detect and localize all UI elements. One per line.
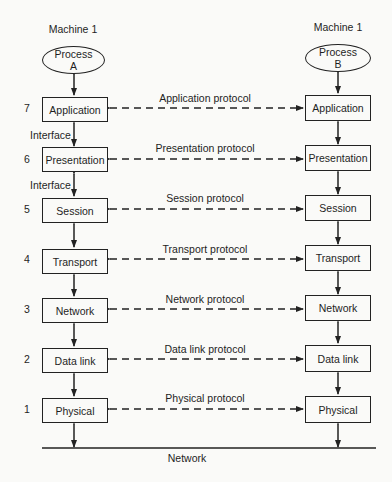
right-layer-data-link: Data link [305,345,371,372]
network-bus-label: Network [168,453,207,464]
layer-number-5: 5 [24,204,30,215]
layer-number-1: 1 [24,404,30,415]
left-layer-application: Application [42,97,108,122]
left-layer-presentation: Presentation [42,147,108,172]
right-layer-presentation: Presentation [305,145,371,171]
application-protocol-label: Application protocol [159,93,251,104]
data-link-protocol-label: Data link protocol [164,344,245,355]
layer-number-2: 2 [24,354,30,365]
left-layer-network: Network [42,298,108,323]
interface-label-6-5: Interface [30,180,71,191]
right-machine-label: Machine 1 [314,22,362,33]
layer-number-7: 7 [24,103,30,114]
left-layer-session: Session [42,198,108,223]
network-protocol-label: Network protocol [166,294,245,305]
process-a-label: Process [55,48,93,60]
physical-protocol-label: Physical protocol [165,393,244,404]
process-a-id: A [70,60,77,72]
left-layer-physical: Physical [42,398,108,423]
layer-number-3: 3 [24,304,30,315]
left-layer-transport: Transport [42,249,108,274]
left-machine-label: Machine 1 [49,24,97,35]
right-layer-session: Session [305,195,371,221]
right-layer-application: Application [305,95,371,121]
layer-number-4: 4 [24,254,30,265]
interface-label-7-6: Interface [30,130,71,141]
process-b-id: B [334,58,341,70]
process-a-node: Process A [42,46,105,74]
right-layer-physical: Physical [305,396,371,423]
process-b-node: Process B [305,44,371,72]
process-b-label: Process [319,46,357,58]
left-layer-data-link: Data link [42,348,108,373]
session-protocol-label: Session protocol [166,193,244,204]
right-layer-network: Network [305,295,371,321]
presentation-protocol-label: Presentation protocol [155,143,254,154]
layer-number-6: 6 [24,154,30,165]
transport-protocol-label: Transport protocol [163,244,248,255]
right-layer-transport: Transport [305,245,371,271]
